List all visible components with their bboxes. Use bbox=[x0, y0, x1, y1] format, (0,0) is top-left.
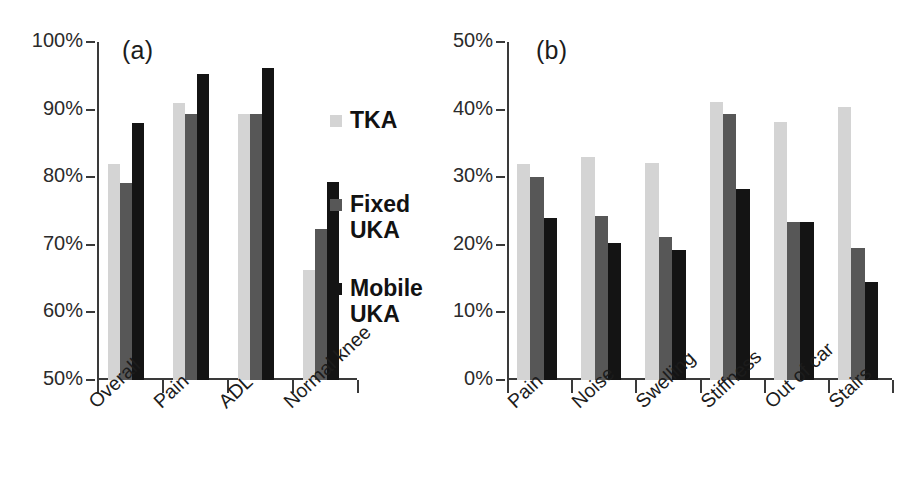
bar-mobile-uka bbox=[544, 218, 557, 380]
bar-group-bars bbox=[507, 42, 571, 380]
bar-tka bbox=[517, 164, 530, 380]
y-tick-dash bbox=[86, 176, 95, 178]
plot-area-a: 50%60%70%80%90%100% OverallPainADLNormal… bbox=[97, 42, 357, 380]
bar-fixed-uka bbox=[787, 222, 800, 380]
bar-group: Overall bbox=[97, 42, 162, 380]
legend-item-fixed-uka[interactable]: Fixed UKA bbox=[330, 192, 410, 244]
bar-mobile-uka bbox=[262, 68, 274, 380]
bar-group-bars bbox=[828, 42, 892, 380]
y-tick-dash bbox=[86, 244, 95, 246]
y-tick-label: 20% bbox=[453, 232, 493, 255]
y-tick-dash bbox=[86, 41, 95, 43]
bar-tka bbox=[645, 163, 658, 380]
y-tick-label: 50% bbox=[43, 367, 83, 390]
legend-label: Fixed UKA bbox=[350, 192, 410, 244]
bar-fixed-uka bbox=[185, 114, 197, 380]
bar-tka bbox=[581, 157, 594, 380]
y-tick-label: 60% bbox=[43, 299, 83, 322]
y-tick-dash bbox=[496, 379, 505, 381]
bar-fixed-uka bbox=[851, 248, 864, 380]
bar-group: Pain bbox=[507, 42, 571, 380]
legend-label: TKA bbox=[350, 108, 397, 134]
panel-b: (b) 0%10%20%30%40%50% PainNoiseSwellingS… bbox=[460, 0, 919, 504]
legend-swatch-mobile-uka-icon bbox=[330, 283, 342, 295]
plot-area-b: 0%10%20%30%40%50% PainNoiseSwellingStiff… bbox=[507, 42, 892, 380]
bar-tka bbox=[774, 122, 787, 380]
y-tick-dash bbox=[496, 311, 505, 313]
bar-group: Pain bbox=[162, 42, 227, 380]
legend: TKAFixed UKAMobile UKA bbox=[330, 100, 458, 320]
bar-group: Out of car bbox=[764, 42, 828, 380]
y-tick-label: 0% bbox=[464, 367, 493, 390]
y-tick-label: 40% bbox=[453, 97, 493, 120]
bar-tka bbox=[108, 164, 120, 380]
y-tick-label: 90% bbox=[43, 97, 83, 120]
bar-mobile-uka bbox=[132, 123, 144, 380]
x-tick bbox=[357, 380, 359, 393]
bar-mobile-uka bbox=[197, 74, 209, 380]
y-tick-label: 50% bbox=[453, 29, 493, 52]
bar-group-bars bbox=[764, 42, 828, 380]
y-tick-dash bbox=[496, 176, 505, 178]
bar-group: ADL bbox=[227, 42, 292, 380]
bar-fixed-uka bbox=[250, 114, 262, 380]
legend-label: Mobile UKA bbox=[350, 276, 423, 328]
bar-group-bars bbox=[571, 42, 635, 380]
bar-tka bbox=[710, 102, 723, 381]
bar-group: Swelling bbox=[635, 42, 699, 380]
bar-groups-a: OverallPainADLNormal knee bbox=[97, 42, 357, 380]
bar-mobile-uka bbox=[865, 282, 878, 380]
y-tick-label: 80% bbox=[43, 164, 83, 187]
legend-swatch-fixed-uka-icon bbox=[330, 199, 342, 211]
bar-tka bbox=[838, 107, 851, 380]
legend-item-mobile-uka[interactable]: Mobile UKA bbox=[330, 276, 423, 328]
y-tick-dash bbox=[496, 41, 505, 43]
y-tick-dash bbox=[86, 379, 95, 381]
legend-swatch-tka-icon bbox=[330, 115, 342, 127]
y-tick-label: 10% bbox=[453, 299, 493, 322]
y-tick-dash bbox=[86, 109, 95, 111]
bar-group-bars bbox=[227, 42, 292, 380]
x-tick bbox=[892, 380, 894, 393]
bar-group: Stairs bbox=[828, 42, 892, 380]
bar-group-bars bbox=[97, 42, 162, 380]
y-tick-label: 70% bbox=[43, 232, 83, 255]
y-tick-dash bbox=[496, 109, 505, 111]
bar-tka bbox=[173, 103, 185, 380]
bar-fixed-uka bbox=[723, 114, 736, 380]
y-tick-dash bbox=[496, 244, 505, 246]
bar-mobile-uka bbox=[608, 243, 621, 380]
figure-root: (a) 50%60%70%80%90%100% OverallPainADLNo… bbox=[0, 0, 919, 504]
bar-fixed-uka bbox=[530, 177, 543, 380]
bar-fixed-uka bbox=[120, 183, 132, 380]
bar-group-bars bbox=[700, 42, 764, 380]
bar-group-bars bbox=[162, 42, 227, 380]
bar-fixed-uka bbox=[595, 216, 608, 380]
bar-tka bbox=[238, 114, 250, 380]
bar-group-bars bbox=[635, 42, 699, 380]
legend-item-tka[interactable]: TKA bbox=[330, 108, 397, 134]
bar-group: Noise bbox=[571, 42, 635, 380]
y-tick-dash bbox=[86, 311, 95, 313]
bar-groups-b: PainNoiseSwellingStiffnessOut of carStai… bbox=[507, 42, 892, 380]
bar-group: Stiffness bbox=[700, 42, 764, 380]
y-tick-label: 30% bbox=[453, 164, 493, 187]
y-tick-label: 100% bbox=[32, 29, 83, 52]
